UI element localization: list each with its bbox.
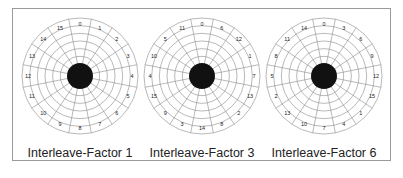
caption-interleave-1: Interleave-Factor 1 <box>15 146 145 160</box>
disk-interleave-6: 0369121514710132581114 <box>263 15 385 137</box>
disk-interleave-1: 0123456789101112131415 <box>19 15 141 137</box>
sector-label: 9 <box>59 121 62 127</box>
sector-label: 10 <box>301 121 307 127</box>
sector-label: 0 <box>78 21 81 27</box>
sector-label: 8 <box>274 53 277 59</box>
sector-label: 14 <box>40 36 46 42</box>
sector-label: 5 <box>270 73 273 79</box>
hub-icon <box>67 63 93 89</box>
sector-label: 13 <box>247 93 253 99</box>
sector-label: 8 <box>78 125 81 131</box>
hub-icon <box>311 63 337 89</box>
sector-label: 4 <box>342 121 345 127</box>
sector-label: 3 <box>127 53 130 59</box>
sector-label: 5 <box>127 93 130 99</box>
sector-label: 3 <box>181 121 184 127</box>
sector-label: 4 <box>148 73 151 79</box>
sector-label: 2 <box>115 36 118 42</box>
sector-label: 9 <box>164 110 167 116</box>
sector-label: 12 <box>25 73 31 79</box>
sector-label: 4 <box>130 73 133 79</box>
sector-label: 14 <box>199 125 205 131</box>
sector-label: 0 <box>200 21 203 27</box>
figure-frame: 0123456789101112131415 06121713281439154… <box>12 8 391 161</box>
sector-label: 15 <box>369 93 375 99</box>
sector-label: 12 <box>236 36 242 42</box>
sector-label: 1 <box>98 25 101 31</box>
sector-label: 7 <box>322 125 325 131</box>
sector-label: 9 <box>371 53 374 59</box>
caption-interleave-3: Interleave-Factor 3 <box>137 146 267 160</box>
sector-label: 1 <box>359 110 362 116</box>
sector-label: 3 <box>342 25 345 31</box>
sector-label: 13 <box>29 53 35 59</box>
sector-label: 12 <box>373 73 379 79</box>
sector-label: 7 <box>98 121 101 127</box>
sector-label: 13 <box>284 110 290 116</box>
sector-label: 10 <box>151 53 157 59</box>
sector-label: 11 <box>179 25 185 31</box>
sector-label: 2 <box>274 93 277 99</box>
disk-interleave-3: 0612171328143915410511 <box>141 15 263 137</box>
sector-label: 5 <box>164 36 167 42</box>
sector-label: 15 <box>57 25 63 31</box>
sector-label: 11 <box>284 36 290 42</box>
sector-label: 2 <box>237 110 240 116</box>
hub-icon <box>189 63 215 89</box>
sector-label: 7 <box>252 73 255 79</box>
sector-label: 14 <box>301 25 307 31</box>
sector-label: 6 <box>220 25 223 31</box>
sector-label: 10 <box>40 110 46 116</box>
sector-label: 6 <box>115 110 118 116</box>
sector-label: 1 <box>249 53 252 59</box>
sector-label: 6 <box>359 36 362 42</box>
sector-label: 11 <box>29 93 35 99</box>
caption-interleave-6: Interleave-Factor 6 <box>259 146 389 160</box>
sector-label: 8 <box>220 121 223 127</box>
sector-label: 15 <box>151 93 157 99</box>
sector-label: 0 <box>322 21 325 27</box>
